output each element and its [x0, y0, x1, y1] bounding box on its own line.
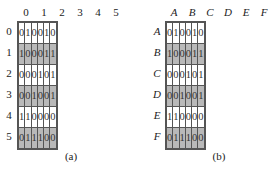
matrix-row: 1 1 0 0 0 0 [167, 107, 205, 128]
matrix-cell: 1 [192, 44, 198, 65]
caption-b: (b) [199, 150, 239, 162]
matrix-cell: 1 [198, 65, 204, 86]
matrix-cell: 1 [167, 44, 173, 65]
caption-a: (a) [51, 150, 91, 162]
matrix-cell: 1 [44, 44, 50, 65]
matrix-cell: 0 [179, 65, 185, 86]
matrix-cell: 0 [37, 23, 43, 44]
matrix-cell: 1 [167, 107, 173, 128]
matrix-cell: 0 [185, 23, 191, 44]
matrix-cell: 1 [185, 65, 191, 86]
matrix-cell: 1 [31, 86, 37, 107]
matrix-cell: 0 [25, 86, 31, 107]
matrix-row: 0 0 0 1 0 1 [167, 65, 205, 86]
matrix-cell: 0 [185, 107, 191, 128]
column-label: E [237, 4, 255, 20]
matrix-cell: 1 [192, 23, 198, 44]
matrix-row: 1 1 0 0 0 0 [19, 107, 57, 128]
matrix-cell: 0 [31, 65, 37, 86]
matrix-cell: 0 [192, 107, 198, 128]
matrix-cell: 0 [50, 128, 56, 149]
matrix-cell: 1 [198, 44, 204, 65]
matrix-cell: 0 [192, 86, 198, 107]
matrix-cell: 0 [44, 65, 50, 86]
matrix-cell: 1 [25, 23, 31, 44]
matrix-grid: 0 1 0 0 1 0 1 0 0 0 1 1 0 0 0 1 0 1 [165, 21, 206, 150]
matrix-cell: 1 [185, 128, 191, 149]
matrix-row: 0 1 0 0 1 0 [167, 23, 205, 44]
matrix-cell: 0 [31, 23, 37, 44]
matrix-cell: 0 [50, 107, 56, 128]
matrix-cell: 0 [50, 23, 56, 44]
matrix-cell: 0 [179, 44, 185, 65]
matrix-cell: 1 [25, 128, 31, 149]
matrix-cell: 1 [173, 23, 179, 44]
matrix-row-shaded: 0 0 1 0 0 1 [19, 86, 57, 107]
matrix-grid: 0 1 0 0 1 0 1 0 0 0 1 1 0 0 0 1 0 1 [17, 21, 58, 150]
matrix-cell: 0 [37, 44, 43, 65]
matrix-cell: 0 [198, 23, 204, 44]
matrix-cell: 1 [44, 23, 50, 44]
column-label: C [201, 4, 219, 20]
matrix-cell: 0 [173, 86, 179, 107]
row-label: 2 [2, 63, 16, 84]
matrix-cell: 1 [25, 107, 31, 128]
matrix-cell: 0 [37, 107, 43, 128]
matrix-cell: 0 [192, 65, 198, 86]
matrix-cell: 0 [44, 107, 50, 128]
matrix-row: 0 1 0 0 1 0 [19, 23, 57, 44]
row-label: C [150, 63, 164, 84]
column-label: 3 [71, 4, 89, 20]
row-labels: A B C D E F [150, 21, 164, 147]
matrix-cell: 0 [19, 128, 25, 149]
column-labels: 0 1 2 3 4 5 [17, 4, 125, 20]
row-label: 1 [2, 42, 16, 63]
matrix-cell: 0 [167, 65, 173, 86]
matrix-cell: 1 [50, 44, 56, 65]
matrix-cell: 1 [179, 128, 185, 149]
matrix-cell: 0 [173, 65, 179, 86]
matrix-cell: 0 [19, 65, 25, 86]
matrix-cell: 0 [198, 128, 204, 149]
matrix-cell: 0 [185, 86, 191, 107]
matrix-cell: 0 [198, 107, 204, 128]
matrix-cell: 1 [198, 86, 204, 107]
matrix-cell: 0 [19, 23, 25, 44]
matrix-cell: 0 [25, 44, 31, 65]
matrix-cell: 0 [179, 107, 185, 128]
matrix-cell: 0 [31, 107, 37, 128]
matrix-cell: 0 [167, 23, 173, 44]
matrix-row-shaded: 1 0 0 0 1 1 [19, 44, 57, 65]
matrix-cell: 0 [19, 86, 25, 107]
column-label: 1 [35, 4, 53, 20]
matrix-row: 0 0 0 1 0 1 [19, 65, 57, 86]
row-label: D [150, 84, 164, 105]
matrix-cell: 1 [19, 44, 25, 65]
matrix-cell: 1 [173, 128, 179, 149]
matrix-cell: 0 [31, 44, 37, 65]
matrix-cell: 0 [179, 23, 185, 44]
matrix-cell: 1 [31, 128, 37, 149]
matrix-cell: 0 [185, 44, 191, 65]
row-label: B [150, 42, 164, 63]
row-label: 0 [2, 21, 16, 42]
matrix-cell: 0 [44, 128, 50, 149]
matrix-cell: 0 [167, 128, 173, 149]
matrix-cell: 1 [179, 86, 185, 107]
column-labels: A B C D E F [165, 4, 271, 20]
matrix-row-shaded: 0 0 1 0 0 1 [167, 86, 205, 107]
column-label: 4 [89, 4, 107, 20]
matrix-cell: 0 [167, 86, 173, 107]
matrix-cell: 0 [25, 65, 31, 86]
matrix-cell: 1 [173, 107, 179, 128]
row-label: A [150, 21, 164, 42]
matrix-cell: 1 [37, 128, 43, 149]
row-labels: 0 1 2 3 4 5 [2, 21, 16, 147]
matrix-cell: 0 [192, 128, 198, 149]
column-label: F [255, 4, 271, 20]
row-label: 3 [2, 84, 16, 105]
matrix-cell: 0 [37, 86, 43, 107]
row-label: F [150, 126, 164, 147]
column-label: 5 [107, 4, 125, 20]
column-label: 0 [17, 4, 35, 20]
